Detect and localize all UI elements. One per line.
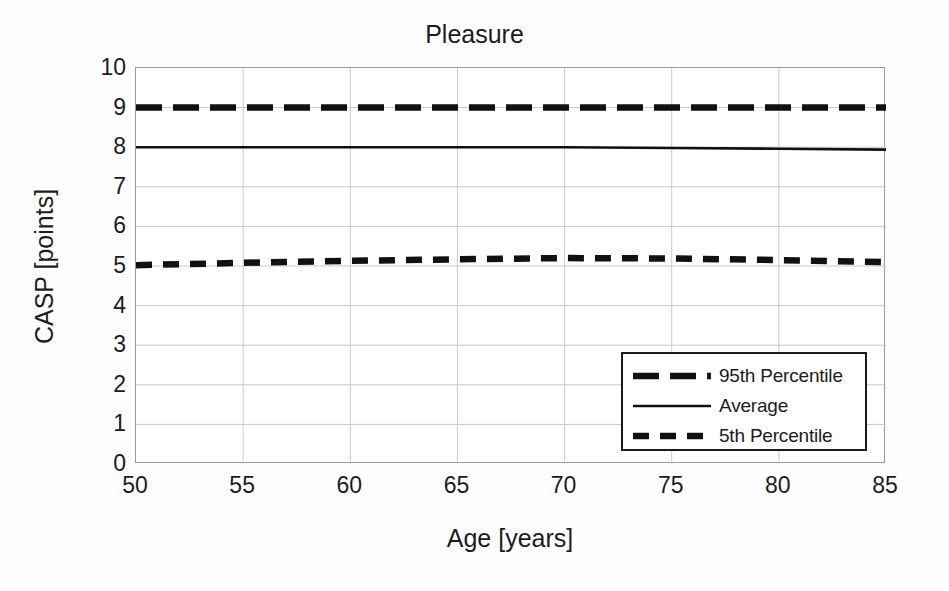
x-axis-tick-labels: 5055606570758085: [135, 474, 885, 508]
legend-item: Average: [623, 390, 869, 421]
x-tick-label: 85: [855, 474, 915, 497]
legend-line-sample-dashed-short: [633, 429, 711, 443]
y-tick-label: 8: [86, 135, 126, 158]
legend-item: 95th Percentile: [623, 360, 869, 391]
x-tick-label: 80: [748, 474, 808, 497]
y-tick-label: 7: [86, 175, 126, 198]
legend-item: 5th Percentile: [623, 420, 869, 451]
y-tick-label: 10: [86, 56, 126, 79]
y-tick-label: 4: [86, 294, 126, 317]
chart-figure: Pleasure CASP [points] 109876543210 95th…: [0, 0, 949, 591]
x-tick-label: 55: [212, 474, 272, 497]
y-axis-title: CASP [points]: [30, 147, 59, 387]
y-tick-label: 5: [86, 254, 126, 277]
series-line-2: [136, 147, 886, 149]
legend-label: 95th Percentile: [719, 365, 843, 387]
x-tick-label: 65: [426, 474, 486, 497]
y-tick-label: 6: [86, 214, 126, 237]
y-tick-label: 0: [86, 452, 126, 475]
y-tick-label: 2: [86, 373, 126, 396]
x-tick-label: 70: [534, 474, 594, 497]
legend-line-sample-dashed-long: [633, 369, 711, 383]
y-axis-tick-labels: 109876543210: [80, 67, 126, 463]
y-tick-label: 1: [86, 412, 126, 435]
x-tick-label: 60: [319, 474, 379, 497]
series-line-3: [136, 258, 886, 265]
x-tick-label: 75: [641, 474, 701, 497]
chart-title: Pleasure: [0, 20, 949, 49]
x-tick-label: 50: [105, 474, 165, 497]
legend-label: Average: [719, 395, 788, 417]
plot-area: 95th PercentileAverage5th Percentile: [135, 67, 885, 463]
y-tick-label: 3: [86, 333, 126, 356]
y-tick-label: 9: [86, 96, 126, 119]
chart-legend: 95th PercentileAverage5th Percentile: [621, 352, 867, 451]
legend-label: 5th Percentile: [719, 425, 832, 447]
x-axis-title: Age [years]: [135, 524, 885, 553]
legend-line-sample-solid: [633, 399, 711, 413]
